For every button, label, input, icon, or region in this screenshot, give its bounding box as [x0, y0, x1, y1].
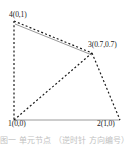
node-label-1: 1(0,0) — [8, 120, 26, 128]
node-label-3: 3(0.7,0.7) — [88, 41, 117, 49]
edge-4-3-solid-chord — [15, 24, 92, 55]
node-label-4: 4(0,1) — [9, 11, 27, 19]
edge-3-2-dashed — [92, 53, 120, 120]
figure-root: 4(0,1) 3(0.7,0.7) 1(0,0) 2(1,0) 图一 单元节点 … — [0, 0, 138, 145]
caption-fragment: 图一 单元节点 （逆时针 方向编号） — [0, 136, 138, 145]
node-label-2: 2(1,0) — [97, 120, 115, 128]
edge-1-3-dashed — [14, 53, 92, 120]
edge-4-3-dashed — [14, 21, 92, 53]
